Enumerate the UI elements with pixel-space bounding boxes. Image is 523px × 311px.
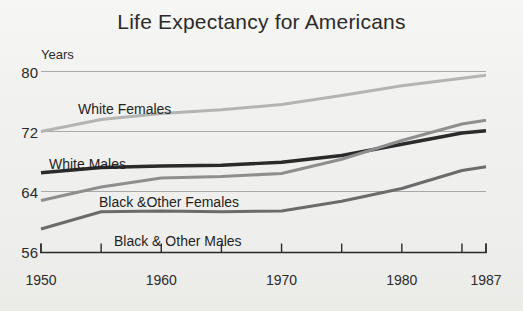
series-label-0: White Females bbox=[78, 101, 171, 117]
x-axis-tickmarks bbox=[41, 244, 486, 253]
series-label-3: Black & Other Males bbox=[114, 233, 242, 249]
chart-figure: Life Expectancy for Americans Years 5664… bbox=[0, 0, 523, 311]
x-tick-label-1950: 1950 bbox=[25, 272, 56, 288]
x-tick-label-1960: 1960 bbox=[146, 272, 177, 288]
x-tick-label-1987: 1987 bbox=[470, 272, 501, 288]
series-label-2: Black &Other Females bbox=[99, 194, 239, 210]
x-tick-label-1980: 1980 bbox=[386, 272, 417, 288]
series-label-1: White Males bbox=[49, 156, 126, 172]
x-tick-label-1970: 1970 bbox=[266, 272, 297, 288]
